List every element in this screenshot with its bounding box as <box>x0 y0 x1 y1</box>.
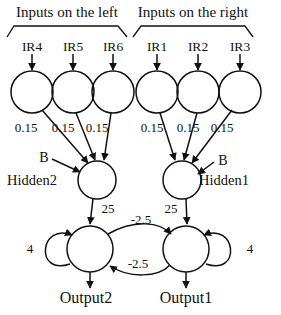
input-label-ir1: IR1 <box>147 40 167 54</box>
weight-label-ir2-hidden1: 0.15 <box>177 121 200 134</box>
node-label-hidden1: Hidden1 <box>199 173 249 188</box>
weight-label-lateral-top: -2.5 <box>131 213 152 226</box>
group-brace-right <box>133 26 253 37</box>
hidden-node-hidden1 <box>163 161 201 199</box>
weight-label-lateral-bottom: -2.5 <box>128 257 149 270</box>
hidden-node-hidden2 <box>78 161 116 199</box>
weight-label-self-output2: 4 <box>27 242 34 255</box>
input-label-ir3: IR3 <box>230 40 250 54</box>
weight-label-ir4-hidden2: 0.15 <box>15 121 38 134</box>
edge-bias-hidden2 <box>52 159 80 172</box>
edge-hidden2-output2 <box>90 199 93 224</box>
input-label-ir2: IR2 <box>188 40 208 54</box>
output-label-output1: Output1 <box>160 290 212 306</box>
edge-ir4-hidden2 <box>42 110 88 163</box>
input-node-ir3 <box>219 71 261 113</box>
input-label-ir6: IR6 <box>103 40 123 54</box>
self-loop-output2 <box>45 233 72 266</box>
weight-label-ir3-hidden1: 0.15 <box>211 121 234 134</box>
input-node-ir6 <box>92 71 134 113</box>
bias-label-hidden1: B <box>218 154 227 168</box>
self-loop-output1 <box>204 233 231 266</box>
neural-network-diagram: Inputs on the left Inputs on the right I… <box>0 0 281 315</box>
input-label-ir5: IR5 <box>63 40 83 54</box>
group-brace-left <box>7 26 127 37</box>
input-node-ir2 <box>177 71 219 113</box>
input-label-ir4: IR4 <box>22 40 42 54</box>
output-node-output2 <box>67 226 113 272</box>
edge-hidden1-output1 <box>186 199 187 224</box>
weight-label-ir6-hidden2: 0.15 <box>86 121 109 134</box>
weight-label-self-output1: 4 <box>247 242 254 255</box>
weight-label-ir5-hidden2: 0.15 <box>52 121 75 134</box>
input-node-ir5 <box>52 71 94 113</box>
weight-label-hidden1-output1: 25 <box>165 202 178 215</box>
bias-label-hidden2: B <box>39 151 48 165</box>
input-node-ir1 <box>136 71 178 113</box>
weight-label-ir1-hidden1: 0.15 <box>141 121 164 134</box>
group-title-right: Inputs on the right <box>138 5 248 20</box>
node-label-hidden2: Hidden2 <box>7 173 57 188</box>
input-node-ir4 <box>11 71 53 113</box>
group-title-left: Inputs on the left <box>16 5 118 20</box>
output-label-output2: Output2 <box>60 290 112 306</box>
weight-label-hidden2-output2: 25 <box>102 202 115 215</box>
